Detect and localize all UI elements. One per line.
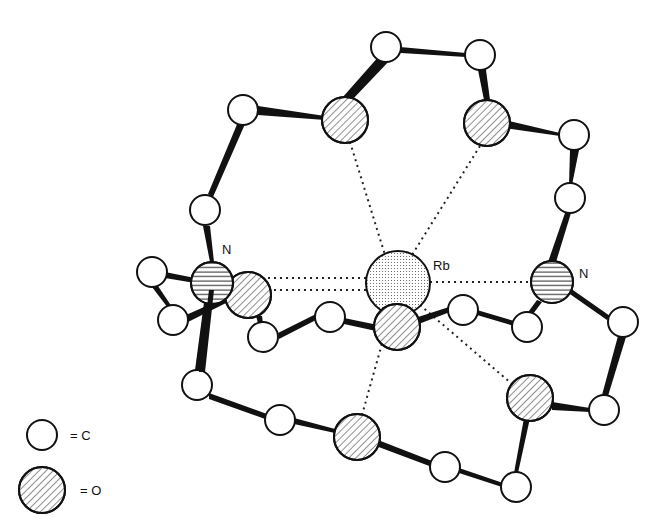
carbon-atom <box>371 32 401 62</box>
carbon-atom <box>608 307 638 337</box>
oxygen-atom <box>464 100 510 146</box>
carbon-atom <box>448 295 478 325</box>
label-n-left: N <box>222 242 231 257</box>
legend-carbon-icon <box>27 420 57 450</box>
carbon-atom <box>190 195 220 225</box>
carbon-atom <box>589 395 619 425</box>
label-rb: Rb <box>433 258 450 273</box>
carbon-atom <box>501 472 531 502</box>
label-n-right: N <box>579 266 588 281</box>
carbon-atom <box>430 452 460 482</box>
carbon-atom <box>182 370 212 400</box>
carbon-atom <box>512 312 542 342</box>
carbon-atom <box>559 120 589 150</box>
oxygen-atom <box>334 414 380 460</box>
legend-oxygen-icon <box>19 467 65 513</box>
carbon-atom <box>248 322 278 352</box>
carbon-atom <box>265 405 295 435</box>
legend-oxygen-label: = O <box>80 483 101 498</box>
carbon-atom <box>228 95 258 125</box>
oxygen-atoms <box>322 97 553 460</box>
nitrogen-atom <box>531 261 573 303</box>
oxygen-atom <box>507 375 553 421</box>
oxygen-atom <box>374 304 420 350</box>
carbon-atom <box>555 183 585 213</box>
carbon-atom <box>137 257 167 287</box>
carbon-atom <box>158 305 188 335</box>
carbon-atom <box>315 302 345 332</box>
oxygen-atom <box>322 97 368 143</box>
legend-carbon-label: = C <box>70 428 91 443</box>
molecule-diagram <box>0 0 658 529</box>
carbon-atom <box>465 40 495 70</box>
